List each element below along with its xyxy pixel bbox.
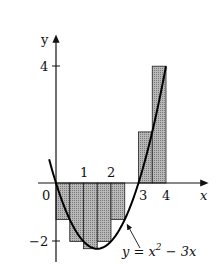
x-tick-label-2: 2	[107, 165, 115, 180]
y-tick-label-neg2: −2	[29, 234, 48, 249]
y-tick-label-4: 4	[40, 59, 48, 74]
x-axis-label: x	[200, 188, 208, 203]
riemann-rectangles	[56, 66, 166, 249]
riemann-sum-chart: y x 4 −2 0 1 2 3 4 y = x2 − 3x	[0, 0, 219, 277]
origin-label: 0	[42, 188, 50, 203]
y-axis-label: y	[40, 32, 49, 47]
riemann-bar	[84, 183, 98, 249]
x-tick-label-1: 1	[80, 165, 88, 180]
x-tick-label-4: 4	[162, 188, 170, 203]
riemann-bar	[111, 183, 125, 220]
riemann-bar	[97, 183, 111, 241]
function-label: y = x2 − 3x	[121, 242, 197, 259]
x-tick-label-3: 3	[139, 188, 147, 203]
